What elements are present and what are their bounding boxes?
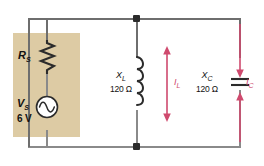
node-top-junction <box>133 15 140 22</box>
node-bottom-junction <box>133 143 140 150</box>
ac-source-symbol <box>35 95 59 119</box>
inductor-current-arrow <box>161 46 173 122</box>
source-label: VS 6 V <box>17 98 31 124</box>
circuit-diagram: RS VS 6 V XL 120 Ω IL <box>0 0 264 166</box>
wire-left-edge <box>28 18 30 147</box>
resistor-symbol <box>38 40 58 74</box>
capacitor-label: XC 120 Ω <box>185 70 229 95</box>
resistor-label: RS <box>18 50 31 65</box>
wire-left-lower <box>46 130 48 147</box>
inductor-label: XL 120 Ω <box>100 70 142 95</box>
capacitor-current-arrow-bottom <box>234 92 246 142</box>
wire-middle-lower <box>136 110 138 147</box>
inductor-current-label: IL <box>174 77 180 89</box>
wire-left-upper <box>46 18 48 42</box>
capacitor-current-arrow-top <box>234 24 246 78</box>
wire-middle-upper <box>136 18 138 58</box>
capacitor-current-label: IC <box>246 77 254 89</box>
